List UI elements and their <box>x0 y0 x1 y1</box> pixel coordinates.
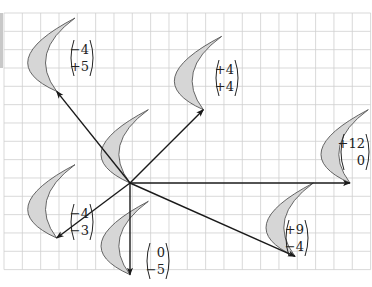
right-paren-icon <box>305 220 308 256</box>
vector-bottom-component: 0 <box>357 153 365 168</box>
image-crescent-v6 <box>28 165 75 238</box>
vector-bottom-component: +5 <box>70 59 89 74</box>
image-crescent-v1 <box>28 18 75 91</box>
column-vector-v2: +4+4 <box>215 60 238 96</box>
image-crescent-v5 <box>101 201 148 274</box>
vector-top-component: +4 <box>215 62 234 77</box>
right-paren-icon <box>166 243 169 279</box>
diagram-canvas: −4+5+4+4+120+9−40−5−4−3 <box>0 0 372 287</box>
right-paren-icon <box>90 40 93 76</box>
square-grid <box>4 13 371 270</box>
column-vector-v1: −4+5 <box>70 40 93 76</box>
vector-bottom-component: −4 <box>285 239 304 254</box>
right-paren-icon <box>90 204 93 240</box>
column-vector-v4: +9−4 <box>285 220 308 256</box>
right-paren-icon <box>366 134 369 170</box>
vector-top-component: +9 <box>285 222 304 237</box>
vector-top-component: 0 <box>157 245 165 260</box>
column-vector-v6: −4−3 <box>70 204 93 240</box>
vector-top-component: −4 <box>70 42 89 57</box>
translation-diagram: −4+5+4+4+120+9−40−5−4−3 <box>0 0 372 287</box>
column-vector-v5: 0−5 <box>146 243 169 279</box>
vector-bottom-component: −3 <box>70 223 89 238</box>
vector-top-component: +12 <box>338 136 365 151</box>
vector-bottom-component: +4 <box>215 79 234 94</box>
vector-bottom-component: −5 <box>146 262 165 277</box>
right-paren-icon <box>235 60 238 96</box>
vector-top-component: −4 <box>70 206 89 221</box>
column-vector-v3: +120 <box>338 134 369 170</box>
scan-edge-strip <box>0 13 3 68</box>
translation-arrow-v2 <box>130 110 203 183</box>
